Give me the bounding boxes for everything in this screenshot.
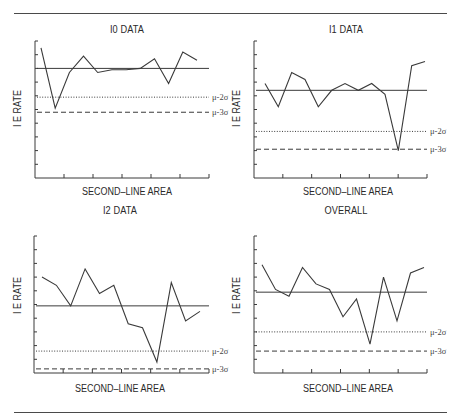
mu-2sigma-label: μ-2σ bbox=[212, 92, 229, 102]
mu-3sigma-label: μ-3σ bbox=[212, 107, 229, 117]
mu-2sigma-label: μ-2σ bbox=[430, 126, 447, 136]
plot-layer: μ-2σμ-3σμ-2σμ-3σμ-2σμ-3σμ-2σμ-3σ bbox=[0, 0, 461, 417]
mu-2sigma-label: μ-2σ bbox=[212, 346, 229, 356]
data-series-line bbox=[42, 269, 200, 362]
mu-3sigma-label: μ-3σ bbox=[212, 364, 229, 374]
mu-3sigma-label: μ-3σ bbox=[430, 144, 447, 154]
mu-2sigma-label: μ-2σ bbox=[430, 327, 447, 337]
data-series-line bbox=[41, 48, 197, 108]
data-series-line bbox=[265, 62, 425, 151]
mu-3sigma-label: μ-3σ bbox=[430, 346, 447, 356]
